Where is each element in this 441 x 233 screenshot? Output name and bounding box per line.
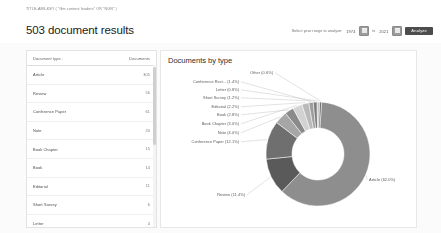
cell-document-count: 61: [146, 110, 150, 114]
cell-document-type[interactable]: Letter: [33, 221, 44, 226]
slice-label: Conference Revi... (1.4%): [193, 79, 240, 84]
table-row[interactable]: Note20: [27, 122, 156, 141]
document-type-table: Document type↓ Documents Article305Revie…: [26, 50, 157, 228]
documents-by-type-chart-panel: Documents by type Article (62.0%)Confere…: [160, 50, 417, 228]
cell-document-count: 4: [148, 222, 150, 226]
year-to-value[interactable]: 2021: [378, 29, 389, 34]
cell-document-type[interactable]: Note: [33, 128, 42, 133]
column-header-document-type-label: Document type: [33, 56, 61, 61]
cell-document-type[interactable]: Review: [33, 91, 46, 96]
cell-document-type[interactable]: Editorial: [33, 184, 48, 189]
cell-document-count: 56: [146, 91, 150, 95]
cell-document-count: 305: [143, 73, 150, 77]
slice-label: Short Survey (1.2%): [203, 95, 240, 100]
table-row[interactable]: Editorial11: [27, 178, 156, 197]
calendar-icon-to[interactable]: [392, 26, 402, 36]
cell-document-count: 14: [146, 166, 150, 170]
leader-line: [247, 177, 270, 195]
table-scrollbar-thumb[interactable]: [153, 67, 156, 145]
cell-document-type[interactable]: Short Survey: [33, 202, 57, 207]
table-row[interactable]: Short Survey6: [27, 196, 156, 215]
table-row[interactable]: Conference Paper61: [27, 103, 156, 122]
cell-document-type[interactable]: Article: [33, 72, 45, 77]
cell-document-count: 15: [146, 147, 150, 151]
cell-document-count: 20: [146, 129, 150, 133]
slice-label: Other (0.6%): [250, 70, 274, 75]
analyze-results-page: TITLE-ABS-KEY ( "film content leaders" O…: [0, 0, 441, 233]
cell-document-type[interactable]: Conference Paper: [33, 109, 66, 114]
table-row[interactable]: Article305: [27, 66, 156, 85]
calendar-icon-from[interactable]: [359, 26, 369, 36]
breadcrumb-bar: TITLE-ABS-KEY ( "film content leaders" O…: [0, 0, 441, 22]
donut-slice-group[interactable]: [266, 102, 370, 206]
cell-document-type[interactable]: Book: [33, 165, 42, 170]
column-header-documents[interactable]: Documents: [129, 56, 150, 61]
leader-line: [366, 176, 367, 180]
slice-label: Review (11.4%): [217, 192, 246, 197]
donut-chart[interactable]: Article (62.0%)Conference Paper (12.1%)R…: [161, 51, 416, 227]
content-area: Document type↓ Documents Article305Revie…: [0, 43, 441, 233]
slice-label: Conference Paper (12.1%): [192, 139, 240, 144]
table-body: Article305Review56Conference Paper61Note…: [27, 66, 156, 228]
table-header-row: Document type↓ Documents: [27, 51, 156, 66]
table-row[interactable]: Book Chapter15: [27, 140, 156, 159]
leader-line: [275, 73, 321, 101]
year-from-value[interactable]: 1974: [345, 29, 356, 34]
table-row[interactable]: Review56: [27, 85, 156, 104]
cell-document-count: 6: [148, 203, 150, 207]
leader-line: [241, 140, 267, 142]
year-range-label: Select year range to analyze:: [292, 29, 343, 33]
leader-line: [241, 103, 305, 107]
slice-label: Note (4.0%): [218, 130, 240, 135]
page-header: 503 document results Select year range t…: [0, 21, 441, 43]
table-row[interactable]: Letter4: [27, 215, 156, 228]
analyze-button[interactable]: Analyze: [405, 27, 433, 36]
column-header-document-type[interactable]: Document type↓: [33, 56, 64, 61]
slice-label: Letter (0.8%): [216, 87, 240, 92]
table-row[interactable]: Book14: [27, 159, 156, 178]
sort-descending-icon: ↓: [62, 57, 64, 61]
slice-label: Book (2.8%): [217, 112, 240, 117]
search-query-breadcrumb[interactable]: TITLE-ABS-KEY ( "film content leaders" O…: [26, 7, 117, 11]
cell-document-type[interactable]: Book Chapter: [33, 147, 58, 152]
page-title: 503 document results: [26, 24, 134, 36]
leader-line: [241, 110, 289, 115]
slice-label: Editorial (2.2%): [212, 104, 240, 109]
slice-label: Book Chapter (3.0%): [202, 121, 240, 126]
slice-label: Article (62.0%): [369, 177, 396, 182]
year-range-controls: Select year range to analyze: 1974 to 20…: [292, 26, 433, 36]
range-to-label: to: [372, 29, 375, 33]
cell-document-count: 11: [146, 184, 150, 188]
